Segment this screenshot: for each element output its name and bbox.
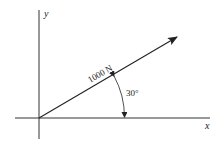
force-vector-arrow — [39, 37, 177, 118]
angle-label: 30° — [126, 88, 139, 98]
y-axis-label: y — [43, 8, 49, 19]
angle-arc — [114, 76, 125, 117]
x-axis-label: x — [204, 120, 210, 131]
force-diagram: y x 1000 N 30° — [0, 0, 219, 145]
